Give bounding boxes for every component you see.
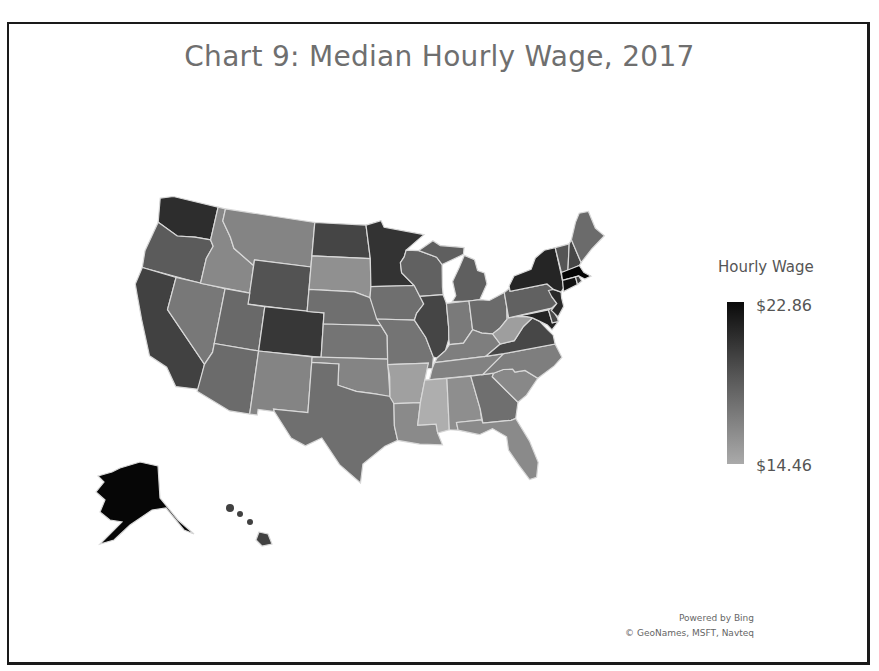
legend-max-label: $22.86 (756, 296, 812, 315)
state-hi-island (237, 511, 243, 517)
state-wy (248, 260, 311, 312)
state-ak (96, 462, 194, 544)
legend-min-label: $14.46 (756, 456, 812, 475)
state-co (259, 307, 324, 358)
state-nm (250, 351, 313, 415)
map-data-credit: © GeoNames, MSFT, Navteq (625, 628, 754, 638)
state-ny (509, 248, 563, 293)
state-mi (452, 255, 487, 301)
state-hi-island (226, 504, 234, 512)
state-hi-island (247, 519, 253, 525)
state-ks (321, 324, 388, 359)
us-choropleth-map (0, 0, 879, 671)
legend-color-scale (727, 302, 744, 464)
powered-by-credit: Powered by Bing (679, 613, 754, 623)
state-fl (457, 419, 539, 480)
state-hi (256, 532, 272, 546)
legend-title: Hourly Wage (718, 258, 814, 276)
state-nd (312, 223, 370, 259)
